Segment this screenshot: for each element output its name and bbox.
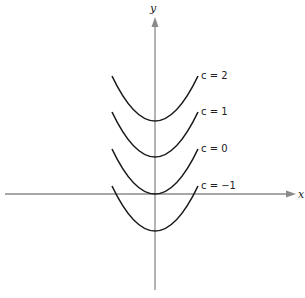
y-axis-label: y bbox=[149, 2, 157, 15]
curve-label: c = 0 bbox=[201, 143, 228, 154]
x-axis-label: x bbox=[298, 188, 305, 201]
parabola-family-diagram: x y c = 2c = 1c = 0c = −1 bbox=[0, 0, 305, 298]
curve-label: c = 2 bbox=[201, 70, 228, 81]
curve-label: c = −1 bbox=[201, 180, 236, 191]
curve-labels: c = 2c = 1c = 0c = −1 bbox=[201, 70, 236, 191]
curve-label: c = 1 bbox=[201, 106, 228, 117]
y-axis-arrow-icon bbox=[152, 17, 159, 27]
x-axis-arrow-icon bbox=[286, 191, 296, 198]
